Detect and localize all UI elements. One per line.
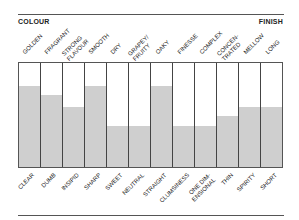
bottom-label: DUMB <box>41 172 58 189</box>
chart-column <box>173 63 195 167</box>
top-rule <box>18 14 284 15</box>
bar-fill <box>151 86 172 167</box>
chart-column <box>63 63 85 167</box>
bottom-label: THIN <box>220 172 234 186</box>
bottom-label: ONE DIM-ENSIONAL <box>186 172 217 203</box>
top-label: DRY <box>110 42 123 55</box>
bar-fill <box>261 107 282 167</box>
bar-fill <box>195 126 216 167</box>
bottom-label: INSIPID <box>60 172 80 192</box>
top-label: OAKY <box>154 39 170 55</box>
wine-profile-chart <box>18 62 283 168</box>
bar-fill <box>63 107 84 167</box>
top-label: GOLDEN <box>21 33 44 56</box>
bar-fill <box>85 86 106 167</box>
chart-column <box>129 63 151 167</box>
top-label: LONG <box>264 39 281 56</box>
bottom-label: SWEET <box>104 172 124 192</box>
bar-fill <box>173 126 194 167</box>
colour-heading: COLOUR <box>18 18 50 25</box>
bottom-label: SHARP <box>83 172 102 191</box>
bottom-label: CLEAR <box>17 172 36 191</box>
bar-fill <box>239 107 260 167</box>
bar-fill <box>41 95 62 167</box>
bar-fill <box>107 126 128 167</box>
chart-column <box>19 63 41 167</box>
top-label: FINESSE <box>176 33 199 56</box>
bottom-label: SPIRITY <box>235 172 256 193</box>
chart-column <box>107 63 129 167</box>
finish-heading: FINISH <box>259 18 283 25</box>
chart-column <box>151 63 173 167</box>
chart-column <box>239 63 261 167</box>
bar-fill <box>129 126 150 167</box>
bar-fill <box>217 116 238 167</box>
top-label: MELLOW <box>242 33 265 56</box>
bottom-rule <box>18 215 284 216</box>
bottom-label: SHORT <box>259 172 278 191</box>
top-label: SMOOTH <box>88 32 111 55</box>
chart-column <box>41 63 63 167</box>
chart-column <box>217 63 239 167</box>
chart-column <box>261 63 282 167</box>
chart-column <box>195 63 217 167</box>
top-label: GRAPEY/FRUITY <box>127 34 155 62</box>
bar-fill <box>19 86 40 167</box>
chart-column <box>85 63 107 167</box>
